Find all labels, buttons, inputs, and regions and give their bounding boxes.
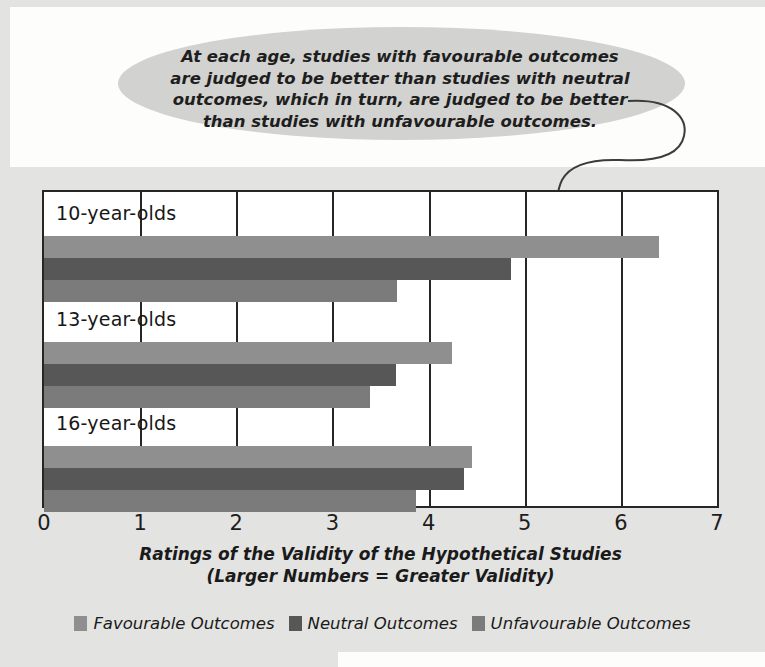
- bar-13-year-olds-neutral: [44, 364, 396, 386]
- x-tick-label-1: 1: [133, 511, 146, 535]
- legend-swatch-icon-neu: [289, 616, 302, 631]
- legend-item-favourable: Favourable Outcomes: [74, 614, 274, 633]
- x-axis-tick-labels: 01234567: [42, 511, 719, 539]
- group-label-13-year-olds: 13-year-olds: [56, 308, 176, 330]
- bar-16-year-olds-favourable: [44, 446, 472, 468]
- x-tick-label-6: 6: [614, 511, 627, 535]
- group-label-16-year-olds: 16-year-olds: [56, 412, 176, 434]
- legend-item-unfavourable: Unfavourable Outcomes: [472, 614, 691, 633]
- legend-label: Favourable Outcomes: [93, 614, 274, 633]
- legend-swatch-icon-unf: [472, 616, 485, 631]
- x-tick-label-0: 0: [37, 511, 50, 535]
- legend-item-neutral: Neutral Outcomes: [289, 614, 458, 633]
- bar-10-year-olds-unfavourable: [44, 280, 397, 302]
- bar-10-year-olds-neutral: [44, 258, 511, 280]
- chart-plot-area: 10-year-olds13-year-olds16-year-olds: [42, 190, 719, 508]
- callout-text: At each age, studies with favourable out…: [150, 46, 650, 132]
- x-tick-label-7: 7: [710, 511, 723, 535]
- group-label-10-year-olds: 10-year-olds: [56, 202, 176, 224]
- x-tick-label-3: 3: [326, 511, 339, 535]
- x-axis-title-line1: Ratings of the Validity of the Hypotheti…: [42, 543, 719, 565]
- x-tick-label-2: 2: [230, 511, 243, 535]
- bar-16-year-olds-neutral: [44, 468, 464, 490]
- legend-label: Unfavourable Outcomes: [491, 614, 691, 633]
- bottom-paper-panel: [338, 652, 765, 667]
- x-tick-label-5: 5: [518, 511, 531, 535]
- x-axis-title: Ratings of the Validity of the Hypotheti…: [42, 543, 719, 587]
- bar-10-year-olds-favourable: [44, 236, 659, 258]
- legend-label: Neutral Outcomes: [308, 614, 458, 633]
- bar-13-year-olds-unfavourable: [44, 386, 370, 408]
- x-tick-label-4: 4: [422, 511, 435, 535]
- bar-16-year-olds-unfavourable: [44, 490, 416, 512]
- x-axis-title-line2: (Larger Numbers = Greater Validity): [42, 565, 719, 587]
- legend-swatch-icon-fav: [74, 616, 87, 631]
- bar-13-year-olds-favourable: [44, 342, 452, 364]
- chart-legend: Favourable OutcomesNeutral OutcomesUnfav…: [0, 614, 765, 633]
